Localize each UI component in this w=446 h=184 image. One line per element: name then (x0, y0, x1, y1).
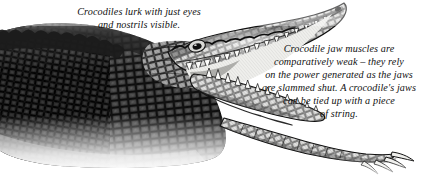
illustration-page: Crocodiles lurk with just eyes and nostr… (0, 0, 446, 184)
bottom-fade (0, 118, 446, 184)
caption-right: Crocodile jaw muscles are comparatively … (232, 42, 446, 120)
caption-left: Crocodiles lurk with just eyes and nostr… (60, 5, 218, 31)
